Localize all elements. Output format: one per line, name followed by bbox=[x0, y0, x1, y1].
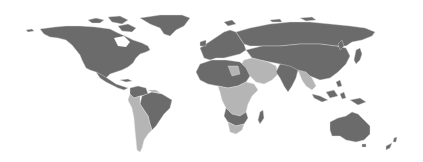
region-europe[interactable] bbox=[200, 20, 246, 60]
region-greenland[interactable] bbox=[140, 15, 190, 36]
region-indonesia[interactable] bbox=[312, 80, 366, 105]
region-australia[interactable] bbox=[330, 112, 370, 147]
region-central-america[interactable] bbox=[96, 72, 132, 90]
region-madagascar[interactable] bbox=[258, 110, 264, 124]
region-new-zealand[interactable] bbox=[386, 137, 397, 150]
region-india[interactable] bbox=[276, 64, 298, 92]
region-north-africa[interactable] bbox=[196, 60, 250, 88]
region-north-america[interactable] bbox=[26, 16, 150, 78]
world-map bbox=[0, 0, 423, 162]
region-russia[interactable] bbox=[236, 17, 375, 46]
